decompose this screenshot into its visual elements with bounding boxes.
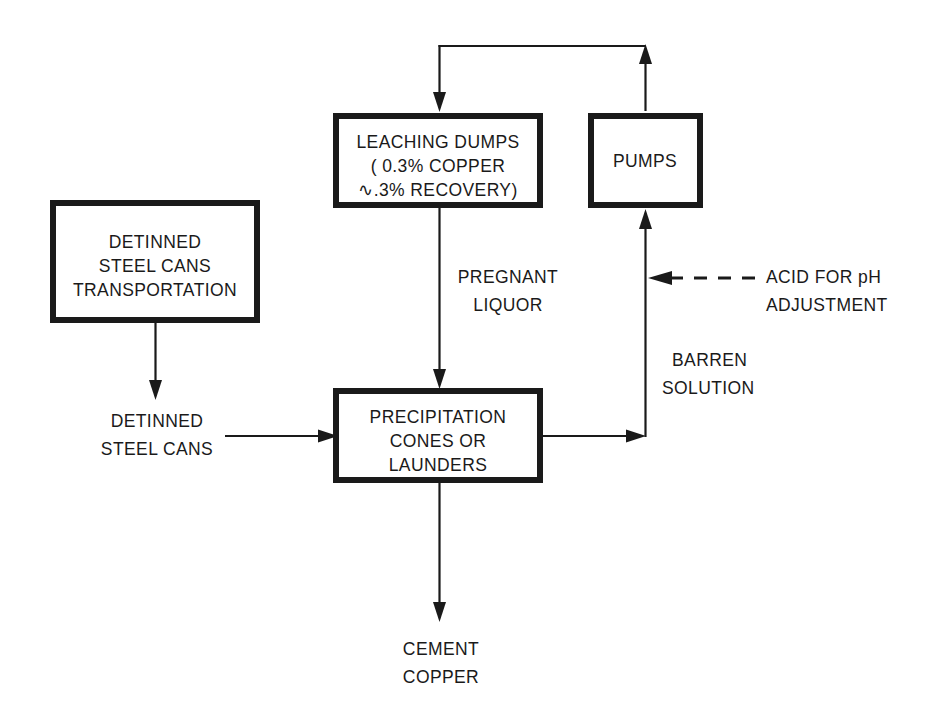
- node-label-line-3: TRANSPORTATION: [73, 280, 237, 300]
- connector-acid-for-ph: [648, 271, 755, 285]
- node-label-line-1: LEACHING DUMPS: [356, 132, 519, 152]
- label-line-1: ACID FOR pH: [766, 267, 881, 287]
- arrow-head-up: [639, 209, 652, 229]
- node-leaching-dumps[interactable]: LEACHING DUMPS ( 0.3% COPPER ∿.3% RECOVE…: [336, 116, 540, 205]
- arrow-head-right: [626, 430, 646, 443]
- node-pumps[interactable]: PUMPS: [591, 116, 700, 205]
- node-label-line-2: STEEL CANS: [99, 256, 211, 276]
- node-label-line-3: LAUNDERS: [389, 455, 488, 475]
- arrow-head-down: [149, 380, 162, 400]
- label-line-1: DETINNED: [111, 411, 204, 431]
- arrow-head-down: [433, 602, 446, 622]
- connector-cement-copper: [433, 483, 446, 622]
- label-line-2: STEEL CANS: [101, 439, 213, 459]
- label-line-1: CEMENT: [403, 639, 479, 659]
- process-flow-diagram: DETINNED STEEL CANS TRANSPORTATION LEACH…: [0, 0, 935, 719]
- label-barren-solution: BARREN SOLUTION: [662, 350, 755, 398]
- connector-pregnant-liquor: [433, 208, 446, 389]
- label-detinned-steel-cans: DETINNED STEEL CANS: [101, 411, 213, 459]
- node-label-line-1: DETINNED: [109, 232, 202, 252]
- arrow-head-left: [648, 271, 672, 285]
- label-line-1: BARREN: [672, 350, 747, 370]
- label-line-2: SOLUTION: [662, 378, 755, 398]
- node-label-line-2: ( 0.3% COPPER: [371, 156, 506, 176]
- label-line-2: ADJUSTMENT: [766, 295, 888, 315]
- flow-diagram-canvas: DETINNED STEEL CANS TRANSPORTATION LEACH…: [0, 0, 935, 719]
- node-detinned-steel-cans-transportation[interactable]: DETINNED STEEL CANS TRANSPORTATION: [53, 203, 257, 320]
- connector-pumps-to-leaching-dumps: [433, 44, 652, 112]
- label-pregnant-liquor: PREGNANT LIQUOR: [458, 267, 558, 315]
- node-precipitation-cones-or-launders[interactable]: PRECIPITATION CONES OR LAUNDERS: [336, 391, 540, 480]
- label-line-2: LIQUOR: [473, 295, 543, 315]
- connector-transportation-down: [149, 323, 162, 400]
- connector-cans-to-precipitation: [225, 430, 338, 443]
- label-line-2: COPPER: [403, 667, 479, 687]
- node-label-line-1: PUMPS: [613, 151, 677, 171]
- label-cement-copper: CEMENT COPPER: [403, 639, 479, 687]
- connector-barren-solution: [543, 209, 652, 443]
- label-acid-for-ph-adjustment: ACID FOR pH ADJUSTMENT: [766, 267, 888, 315]
- node-label-line-2: CONES OR: [390, 431, 487, 451]
- label-line-1: PREGNANT: [458, 267, 558, 287]
- arrow-head-down: [433, 92, 446, 112]
- node-label-line-1: PRECIPITATION: [370, 407, 507, 427]
- node-label-line-3: ∿.3% RECOVERY): [358, 180, 517, 200]
- arrow-head-down: [433, 369, 446, 389]
